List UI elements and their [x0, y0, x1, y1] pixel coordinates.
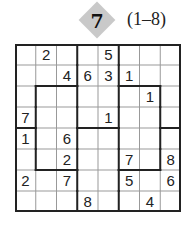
grid-cell[interactable]: 7: [119, 149, 140, 170]
grid-cell[interactable]: [140, 170, 161, 191]
grid-cell[interactable]: 1: [15, 128, 36, 149]
grid-cell[interactable]: [98, 86, 119, 107]
grid-cell[interactable]: [77, 170, 98, 191]
grid-cell[interactable]: [140, 128, 161, 149]
grid-cell[interactable]: [36, 65, 57, 86]
grid-cell[interactable]: [15, 149, 36, 170]
grid-cell[interactable]: 3: [98, 65, 119, 86]
puzzle-number: 7: [84, 8, 110, 34]
grid-cell[interactable]: [36, 149, 57, 170]
grid-cell[interactable]: [98, 128, 119, 149]
grid-cell[interactable]: 1: [140, 86, 161, 107]
grid-cell[interactable]: [57, 86, 78, 107]
grid-cell[interactable]: 2: [36, 44, 57, 65]
grid-cell[interactable]: [36, 107, 57, 128]
grid-cell[interactable]: [160, 44, 181, 65]
grid-cell[interactable]: [160, 191, 181, 212]
grid-cell[interactable]: [15, 86, 36, 107]
grid-cell[interactable]: [140, 65, 161, 86]
grid-cell[interactable]: [77, 86, 98, 107]
grid-cell[interactable]: [140, 107, 161, 128]
grid-cell[interactable]: 6: [57, 128, 78, 149]
grid-cell[interactable]: [119, 44, 140, 65]
grid-cell[interactable]: [36, 191, 57, 212]
grid-cell[interactable]: 6: [160, 170, 181, 191]
grid-cell[interactable]: 8: [77, 191, 98, 212]
grid-cell[interactable]: 1: [98, 107, 119, 128]
sudoku-grid: 25463117116278275684: [15, 44, 181, 212]
grid-cell[interactable]: [160, 65, 181, 86]
grid-cell[interactable]: 2: [15, 170, 36, 191]
grid-cell[interactable]: 5: [98, 44, 119, 65]
grid-cell[interactable]: [77, 128, 98, 149]
grid-cell[interactable]: [15, 65, 36, 86]
grid-cell[interactable]: [36, 86, 57, 107]
grid-cell[interactable]: 2: [57, 149, 78, 170]
grid-cell[interactable]: [119, 86, 140, 107]
grid-cell[interactable]: [77, 149, 98, 170]
grid-cell[interactable]: 4: [140, 191, 161, 212]
grid-cell[interactable]: [77, 107, 98, 128]
number-range: (1–8): [127, 9, 166, 30]
grid-cell[interactable]: [160, 86, 181, 107]
grid-cell[interactable]: [57, 191, 78, 212]
grid-cell[interactable]: [57, 44, 78, 65]
grid-cell[interactable]: [140, 149, 161, 170]
grid-cell[interactable]: 5: [119, 170, 140, 191]
grid-cell[interactable]: [98, 149, 119, 170]
grid-cell[interactable]: [98, 170, 119, 191]
grid-cell[interactable]: [98, 191, 119, 212]
grid-cell[interactable]: [36, 170, 57, 191]
grid-cell[interactable]: [15, 191, 36, 212]
grid-cell[interactable]: [119, 107, 140, 128]
grid-cell[interactable]: [119, 191, 140, 212]
grid-cell[interactable]: [119, 128, 140, 149]
grid-cell[interactable]: [160, 128, 181, 149]
grid-cell[interactable]: 6: [77, 65, 98, 86]
grid-cell[interactable]: 7: [57, 170, 78, 191]
grid-cell[interactable]: [36, 128, 57, 149]
grid-cell[interactable]: [77, 44, 98, 65]
grid-cell[interactable]: 4: [57, 65, 78, 86]
grid-cell[interactable]: 1: [119, 65, 140, 86]
grid-cell[interactable]: [140, 44, 161, 65]
grid-cell[interactable]: [160, 107, 181, 128]
grid-cell[interactable]: [15, 44, 36, 65]
grid-cell[interactable]: 7: [15, 107, 36, 128]
grid-cell[interactable]: 8: [160, 149, 181, 170]
grid-cell[interactable]: [57, 107, 78, 128]
